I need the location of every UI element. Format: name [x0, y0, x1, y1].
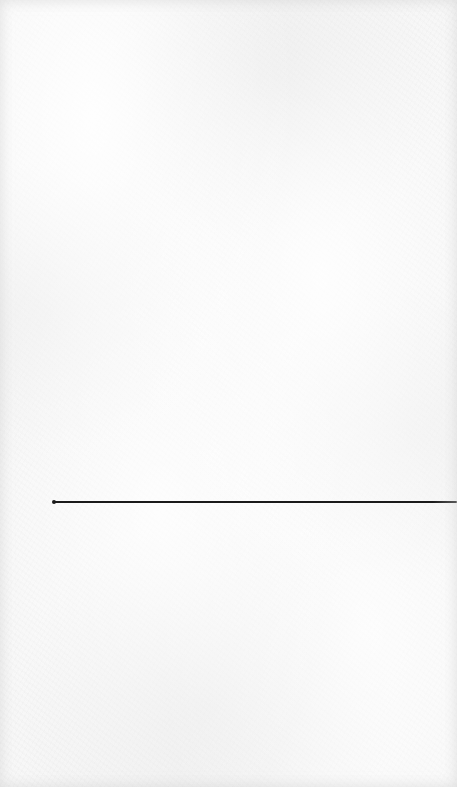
paper-page [0, 0, 457, 787]
horizontal-writing-line [53, 501, 457, 503]
